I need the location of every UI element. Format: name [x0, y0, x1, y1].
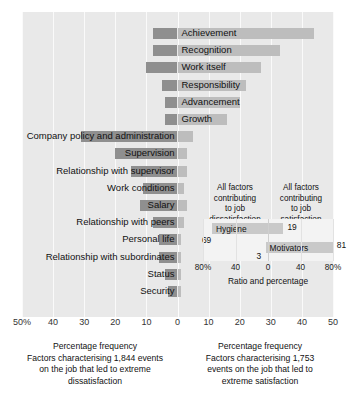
- bar-label: Company policy and administration: [27, 129, 175, 143]
- bar-segment-dissatisfaction: [153, 28, 178, 39]
- bar-segment-dissatisfaction: [153, 45, 178, 56]
- bar-segment-satisfaction: [178, 217, 184, 228]
- caption-left-line-4: dissatisfaction: [14, 376, 176, 388]
- inset-x-axis-tick: 0: [266, 263, 271, 272]
- inset-zero-line: [268, 219, 269, 261]
- bar-segment-satisfaction: [178, 131, 194, 142]
- bar-row: Supervision: [22, 148, 333, 159]
- bar-row: Work itself: [22, 62, 333, 73]
- bar-label: Growth: [182, 112, 213, 126]
- bar-row: Company policy and administration: [22, 131, 333, 142]
- x-axis: 50%4030201001020304050: [22, 317, 333, 333]
- inset-label-hygiene: Hygiene: [216, 224, 247, 235]
- bar-segment-satisfaction: [178, 200, 187, 211]
- bar-label: Achievement: [182, 26, 237, 40]
- caption-dissatisfaction: Percentage frequency Factors characteris…: [14, 341, 176, 387]
- bar-segment-satisfaction: [178, 148, 187, 159]
- caption-satisfaction: Percentage frequency Factors characteris…: [182, 341, 338, 387]
- inset-gridline-3: [301, 219, 302, 261]
- bar-label: Security: [140, 284, 174, 298]
- bar-row: Advancement: [22, 97, 333, 108]
- inset-plot-area: Hygiene 69 19 Motivators 3 81: [203, 219, 333, 261]
- inset-x-axis-tick: 80%: [195, 263, 211, 272]
- caption-right-line-2: Factors characterising 1,753: [182, 353, 338, 365]
- bar-label: Salary: [148, 198, 175, 212]
- bar-label: Supervision: [125, 146, 175, 160]
- inset-gridline-0: [203, 219, 204, 261]
- bar-label: Status: [148, 267, 175, 281]
- x-axis-tick: 0: [175, 317, 180, 327]
- bar-label: Work conditions: [107, 181, 174, 195]
- inset-x-axis-tick: 40: [296, 263, 305, 272]
- bar-label: Personal life: [122, 232, 174, 246]
- caption-left-line-2: Factors characterising 1,844 events: [14, 353, 176, 365]
- bar-segment-satisfaction: [178, 166, 187, 177]
- bar-label: Responsibility: [182, 78, 241, 92]
- bar-row: Achievement: [22, 28, 333, 39]
- bar-segment-satisfaction: [178, 269, 181, 280]
- bar-segment-dissatisfaction: [146, 62, 177, 73]
- caption-left-line-3: on the job that led to extreme: [14, 364, 176, 376]
- inset-gridline-4: [333, 219, 334, 261]
- inset-x-axis-tick: 80%: [325, 263, 341, 272]
- bar-segment-satisfaction: [178, 252, 181, 263]
- inset-axis-title: Ratio and percentage: [203, 276, 333, 286]
- bar-segment-dissatisfaction: [165, 114, 177, 125]
- x-axis-tick: 40: [48, 317, 58, 327]
- bar-label: Work itself: [182, 60, 226, 74]
- x-axis-tick: 20: [110, 317, 120, 327]
- bar-row: Responsibility: [22, 80, 333, 91]
- caption-right-line-4: extreme satisfaction: [182, 376, 338, 388]
- bar-label: Recognition: [182, 43, 232, 57]
- bar-label: Relationship with subordinates: [46, 250, 175, 264]
- x-axis-tick: 10: [141, 317, 151, 327]
- bar-label: Relationship with supervisor: [56, 164, 174, 178]
- bar-label: Relationship with peers: [76, 215, 174, 229]
- inset-head-left-l1: All factors: [203, 183, 267, 194]
- x-axis-tick: 30: [79, 317, 89, 327]
- bar-segment-dissatisfaction: [162, 80, 178, 91]
- bar-label: Advancement: [182, 95, 240, 109]
- bar-segment-satisfaction: [178, 286, 181, 297]
- inset-value-motivators-satisfaction: 81: [337, 240, 346, 251]
- inset-head-left-l3: to job: [203, 204, 267, 215]
- inset-value-motivators-dissatisfaction: 3: [257, 251, 262, 262]
- bar-row: Recognition: [22, 45, 333, 56]
- inset-head-right-l2: contributing: [269, 194, 333, 205]
- bar-segment-satisfaction: [178, 234, 181, 245]
- inset-head-right-l3: to job: [269, 204, 333, 215]
- x-axis-tick: 10: [204, 317, 214, 327]
- bar-row: Relationship with supervisor: [22, 166, 333, 177]
- inset-head-left-l2: contributing: [203, 194, 267, 205]
- inset-head-right-l1: All factors: [269, 183, 333, 194]
- chart-container: AchievementRecognitionWork itselfRespons…: [0, 0, 350, 400]
- inset-gridline-1: [236, 219, 237, 261]
- x-axis-tick: 50%: [13, 317, 31, 327]
- inset-x-axis: 80%4004080%: [203, 263, 333, 275]
- inset-value-hygiene-satisfaction: 19: [287, 222, 296, 233]
- caption-left-line-1: Percentage frequency: [14, 341, 176, 353]
- inset-chart: All factors contributing to job dissatis…: [203, 183, 333, 293]
- caption-right-line-3: events on the job that led to: [182, 364, 338, 376]
- x-axis-tick: 30: [266, 317, 276, 327]
- inset-label-motivators: Motivators: [270, 243, 309, 254]
- bar-segment-satisfaction: [178, 183, 184, 194]
- x-axis-tick: 20: [235, 317, 245, 327]
- caption-right-line-1: Percentage frequency: [182, 341, 338, 353]
- x-axis-tick: 40: [297, 317, 307, 327]
- inset-x-axis-tick: 40: [231, 263, 240, 272]
- bar-segment-dissatisfaction: [165, 97, 177, 108]
- bar-row: Growth: [22, 114, 333, 125]
- x-axis-tick: 50: [328, 317, 338, 327]
